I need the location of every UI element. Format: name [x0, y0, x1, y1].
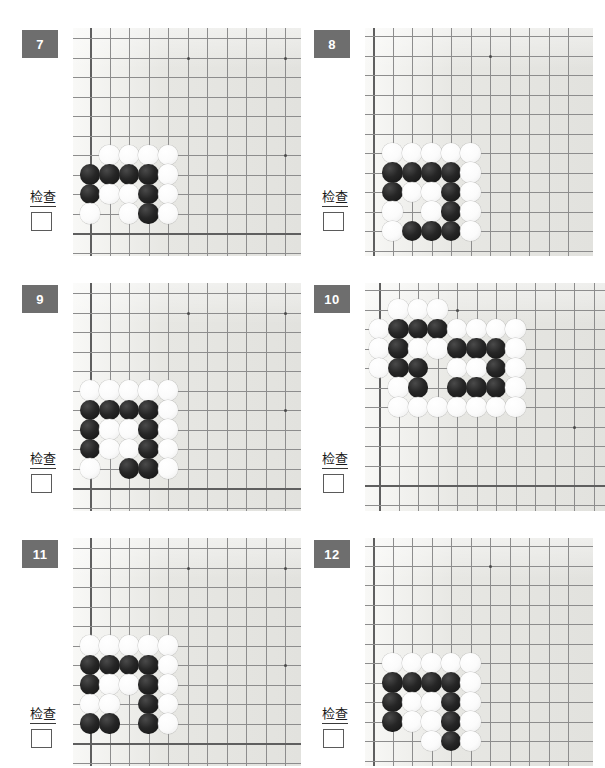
grid-line-horizontal — [73, 77, 301, 78]
grid-line-horizontal — [73, 233, 301, 235]
grid-line-horizontal — [73, 587, 301, 588]
check-label: 检查 — [322, 190, 348, 207]
panel-number-badge: 12 — [314, 540, 350, 568]
stone-white — [99, 694, 119, 714]
board-background — [365, 28, 593, 256]
star-point — [187, 57, 190, 60]
grid-line-vertical — [246, 28, 247, 256]
grid-line-vertical — [188, 283, 189, 511]
stone-white — [80, 380, 100, 400]
grid-line-horizontal — [73, 332, 301, 333]
grid-line-horizontal — [365, 761, 593, 762]
stone-white — [158, 164, 178, 184]
grid-line-vertical — [188, 538, 189, 766]
stone-black — [441, 672, 461, 692]
stone-white — [119, 203, 139, 223]
grid-line-horizontal — [365, 427, 605, 428]
grid-line-vertical — [535, 283, 536, 511]
star-point — [284, 312, 287, 315]
stone-black — [408, 319, 428, 339]
stone-black — [119, 164, 139, 184]
stone-white — [505, 358, 525, 378]
stone-black — [441, 201, 461, 221]
grid-line-horizontal — [73, 743, 301, 745]
star-point — [456, 309, 459, 312]
stone-white — [505, 377, 525, 397]
stone-black — [80, 184, 100, 204]
grid-line-vertical — [246, 538, 247, 766]
check-checkbox[interactable] — [323, 212, 344, 231]
grid-line-horizontal — [365, 114, 593, 115]
stone-black — [388, 338, 408, 358]
stone-white — [408, 299, 428, 319]
stone-black — [486, 377, 506, 397]
star-point — [187, 312, 190, 315]
check-label: 检查 — [322, 707, 348, 724]
stone-white — [80, 635, 100, 655]
check-checkbox[interactable] — [31, 474, 52, 493]
grid-line-vertical — [227, 283, 228, 511]
grid-line-vertical — [266, 28, 267, 256]
stone-black — [408, 358, 428, 378]
stone-white — [158, 145, 178, 165]
grid-line-horizontal — [365, 95, 593, 96]
stone-black — [80, 419, 100, 439]
go-board-9 — [73, 283, 301, 511]
stone-black — [421, 221, 441, 241]
go-board-8 — [365, 28, 593, 256]
stone-black — [408, 377, 428, 397]
grid-line-vertical — [574, 283, 575, 511]
check-checkbox[interactable] — [31, 212, 52, 231]
check-label: 检查 — [30, 452, 56, 469]
go-board-7 — [73, 28, 301, 256]
grid-line-horizontal — [73, 136, 301, 137]
check-label: 检查 — [30, 707, 56, 724]
stone-white — [460, 653, 480, 673]
stone-white — [421, 711, 441, 731]
stone-black — [138, 713, 158, 733]
grid-line-vertical — [412, 538, 413, 766]
stone-black — [138, 203, 158, 223]
stone-white — [99, 184, 119, 204]
stone-black — [138, 419, 158, 439]
grid-line-horizontal — [73, 488, 301, 490]
stone-black — [441, 711, 461, 731]
check-checkbox[interactable] — [323, 729, 344, 748]
grid-line-horizontal — [73, 352, 301, 353]
grid-line-vertical — [510, 28, 511, 256]
check-checkbox[interactable] — [31, 729, 52, 748]
stone-black — [138, 439, 158, 459]
grid-line-horizontal — [73, 371, 301, 372]
check-checkbox[interactable] — [323, 474, 344, 493]
stone-white — [158, 694, 178, 714]
stone-black — [388, 358, 408, 378]
grid-line-vertical — [393, 538, 394, 766]
stone-white — [158, 400, 178, 420]
star-point — [489, 565, 492, 568]
grid-line-horizontal — [73, 293, 301, 294]
go-board-11 — [73, 538, 301, 766]
stone-black — [119, 400, 139, 420]
stone-white — [388, 397, 408, 417]
grid-line-horizontal — [365, 485, 605, 487]
stone-black — [138, 184, 158, 204]
star-point — [284, 567, 287, 570]
stone-white — [158, 674, 178, 694]
stone-black — [382, 162, 402, 182]
grid-line-vertical — [373, 538, 375, 766]
stone-white — [505, 338, 525, 358]
stone-white — [460, 672, 480, 692]
check-label: 检查 — [322, 452, 348, 469]
grid-line-vertical — [285, 28, 286, 256]
stone-white — [369, 358, 389, 378]
grid-line-horizontal — [365, 36, 593, 37]
grid-line-vertical — [285, 538, 286, 766]
stone-black — [138, 458, 158, 478]
stone-white — [460, 692, 480, 712]
stone-white — [460, 731, 480, 751]
grid-line-horizontal — [73, 253, 301, 254]
stone-white — [505, 319, 525, 339]
panel-number-badge: 11 — [22, 540, 58, 568]
star-point — [284, 409, 287, 412]
grid-line-horizontal — [365, 446, 605, 447]
